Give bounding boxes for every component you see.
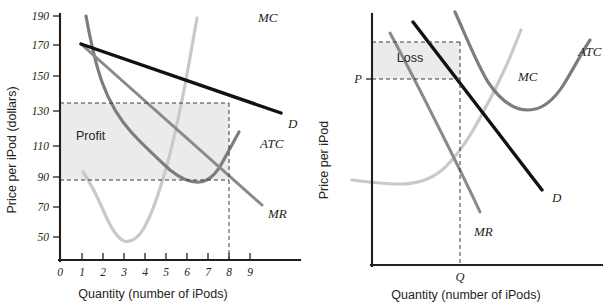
y-axis-title: Price per iPod (dollars) [5,86,19,213]
economic-loss-panel: P Q Quantity (number of iPods) Price per… [310,0,611,304]
mc-curve-label: MC [517,69,538,84]
y-tick-label-170: 170 [32,39,50,51]
demand-curve [413,22,542,190]
atc-curve [455,12,590,110]
economic-profit-panel: 50 70 90 110 130 150 170 190 0 1 2 [0,0,310,304]
x-tick-label-4: 4 [142,266,148,278]
y-tick-label-70: 70 [38,201,50,213]
demand-curve-label: D [551,190,562,205]
x-axis-title: Quantity (number of iPods) [391,288,540,302]
quantity-axis-label: Q [455,270,464,284]
demand-curve-label: D [287,116,298,131]
y-tick-label-150: 150 [32,70,50,82]
x-tick-label-2: 2 [100,266,106,278]
x-tick-label-8: 8 [226,266,232,278]
y-tick-label-110: 110 [33,140,50,152]
y-tick-label-90: 90 [38,171,50,183]
x-tick-label-7: 7 [205,266,212,278]
x-tick-label-3: 3 [120,266,127,278]
x-tick-label-5: 5 [163,266,169,278]
atc-curve-label: ATC [577,44,602,59]
x-axis-title: Quantity (number of iPods) [78,287,227,301]
mr-curve-label: MR [473,224,493,239]
mc-curve-label: MC [257,10,278,25]
x-tick-label-0: 0 [57,266,63,278]
y-axis-title: Price per iPod [317,121,331,200]
y-tick-label-130: 130 [32,105,50,117]
monopoly-profit-loss-figure: 50 70 90 110 130 150 170 190 0 1 2 [0,0,611,304]
y-tick-label-50: 50 [38,231,50,243]
x-tick-label-9: 9 [247,266,253,278]
profit-region-label: Profit [76,129,106,143]
atc-curve-label: ATC [259,136,284,151]
x-tick-label-1: 1 [79,266,85,278]
loss-region-label: Loss [397,51,423,65]
y-tick-label-190: 190 [32,10,50,22]
x-tick-label-6: 6 [184,266,190,278]
mr-curve-label: MR [267,206,287,221]
price-axis-label: P [353,72,362,86]
